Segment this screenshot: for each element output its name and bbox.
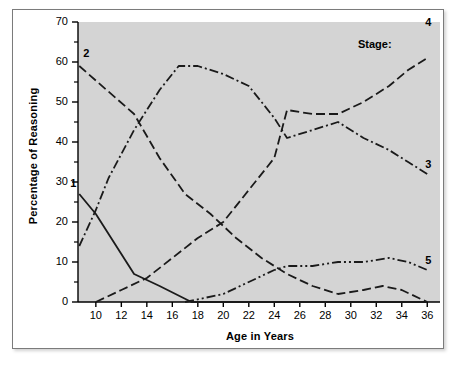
y-tick-label: 40	[38, 135, 68, 147]
series-label-4: 4	[425, 16, 431, 28]
y-tick-label: 20	[38, 215, 68, 227]
x-tick-label: 32	[362, 309, 390, 321]
plot-area-background	[78, 22, 440, 302]
x-tick-label: 24	[260, 309, 288, 321]
x-tick-label: 18	[184, 309, 212, 321]
y-tick-label: 60	[38, 55, 68, 67]
x-tick-label: 30	[337, 309, 365, 321]
series-label-2: 2	[83, 47, 89, 59]
y-tick-label: 30	[38, 175, 68, 187]
x-tick-label: 16	[158, 309, 186, 321]
x-tick-label: 22	[235, 309, 263, 321]
x-tick-label: 12	[107, 309, 135, 321]
x-tick-label: 28	[311, 309, 339, 321]
y-tick-label: 70	[38, 15, 68, 27]
x-tick-label: 14	[133, 309, 161, 321]
chart-figure: Percentage of Reasoning Age in Years Sta…	[0, 0, 460, 366]
y-tick-label: 10	[38, 255, 68, 267]
y-tick-label: 0	[38, 295, 68, 307]
x-tick-label: 20	[209, 309, 237, 321]
legend-caption: Stage:	[358, 38, 392, 50]
y-tick-label: 50	[38, 95, 68, 107]
x-tick-label: 34	[388, 309, 416, 321]
series-label-3: 3	[425, 158, 431, 170]
series-label-1: 1	[70, 177, 76, 189]
x-tick-label: 36	[413, 309, 441, 321]
x-tick-label: 10	[82, 309, 110, 321]
x-tick-label: 26	[286, 309, 314, 321]
series-label-5: 5	[425, 254, 431, 266]
x-axis-title: Age in Years	[150, 330, 370, 342]
